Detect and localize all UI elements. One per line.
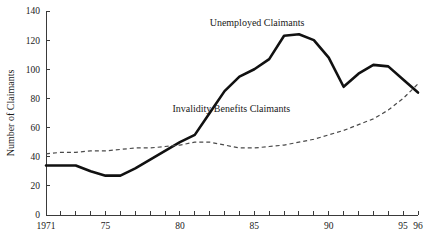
x-axis-tick-label: 85	[250, 221, 260, 231]
x-axis-tick-label: 80	[175, 221, 185, 231]
line-chart: 020406080100120140 1971758085909596 Unem…	[0, 0, 437, 252]
x-axis: 1971758085909596	[37, 211, 424, 231]
chart-container: 020406080100120140 1971758085909596 Unem…	[0, 0, 437, 252]
y-axis: 020406080100120140	[26, 6, 50, 220]
y-axis-tick-label: 20	[31, 181, 41, 191]
y-axis-title: Number of Claimants	[5, 70, 16, 157]
x-axis-tick-label: 75	[101, 221, 111, 231]
series-label-invalidity-benefits-claimants: Invalidity Benefits Claimants	[172, 103, 290, 114]
x-axis-tick-label: 90	[324, 221, 334, 231]
series-annotations: Unemployed ClaimantsInvalidity Benefits …	[172, 17, 304, 114]
x-axis-tick-label: 96	[413, 221, 423, 231]
series-line-invalidity-benefits-claimants	[46, 84, 418, 154]
y-axis-tick-label: 100	[26, 65, 41, 75]
y-axis-tick-label: 140	[26, 6, 41, 16]
y-axis-tick-label: 0	[35, 210, 40, 220]
y-axis-tick-label: 120	[26, 36, 41, 46]
x-axis-tick-label: 95	[398, 221, 408, 231]
x-axis-tick-label: 1971	[37, 221, 56, 231]
y-axis-tick-label: 60	[31, 123, 41, 133]
series-label-unemployed-claimants: Unemployed Claimants	[210, 17, 305, 28]
y-axis-tick-label: 40	[31, 152, 41, 162]
y-axis-tick-label: 80	[31, 94, 41, 104]
